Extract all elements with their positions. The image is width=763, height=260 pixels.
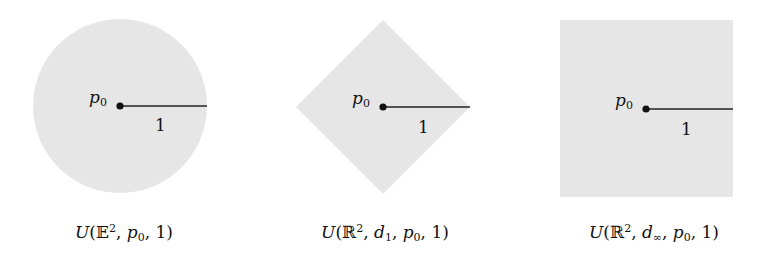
unit-balls-figure: p0 1 p0 1 p0 1 <box>0 0 763 260</box>
center-point <box>642 105 649 112</box>
center-point <box>379 103 386 110</box>
radius-label: 1 <box>155 115 166 135</box>
caption-chebyshev: U(ℝ2, d∞, p0, 1) <box>589 222 719 244</box>
panel-euclidean: p0 1 <box>33 19 207 193</box>
radius-label: 1 <box>418 117 429 137</box>
panel-chebyshev: p0 1 <box>560 20 733 197</box>
caption-taxicab: U(ℝ2, d1, p0, 1) <box>321 222 449 244</box>
center-point <box>116 102 123 109</box>
caption-euclidean: U(𝔼2, p0, 1) <box>75 222 173 244</box>
radius-label: 1 <box>681 119 692 139</box>
panel-taxicab: p0 1 <box>296 20 470 194</box>
